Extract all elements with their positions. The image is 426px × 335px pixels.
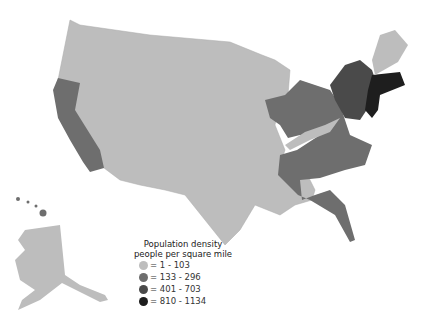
legend-item: = 401 - 703: [139, 283, 258, 295]
legend-label: = 401 - 703: [150, 284, 201, 294]
legend-title-line1: Population density: [108, 239, 258, 249]
legend-label: = 1 - 103: [150, 260, 190, 270]
swatch-icon: [139, 261, 148, 270]
legend: Population density people per square mil…: [118, 239, 258, 307]
legend-title-line2: people per square mile: [108, 249, 258, 259]
legend-label: = 133 - 296: [150, 272, 201, 282]
legend-label: = 810 - 1134: [150, 296, 206, 306]
states-northeast-darkest: [365, 72, 405, 118]
hawaii: [16, 197, 47, 217]
swatch-icon: [139, 273, 148, 282]
us-mainland-light: [55, 20, 315, 245]
population-density-map: Population density people per square mil…: [0, 0, 426, 335]
states-new-england-light: [372, 30, 408, 75]
legend-item: = 1 - 103: [139, 259, 258, 271]
alaska: [15, 225, 108, 310]
legend-item: = 133 - 296: [139, 271, 258, 283]
swatch-icon: [139, 297, 148, 306]
swatch-icon: [139, 285, 148, 294]
legend-item: = 810 - 1134: [139, 295, 258, 307]
